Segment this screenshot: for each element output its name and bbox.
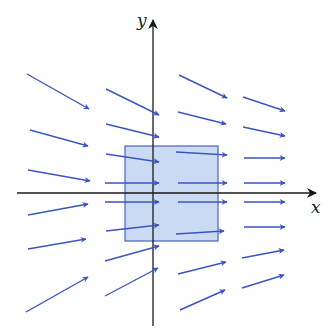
vector-arrow [243,97,285,111]
vector-arrow [178,112,226,124]
vector-field-diagram: x y [0,0,336,333]
vector-arrow [105,246,159,261]
vector-arrow [242,250,284,258]
vector-arrow [106,89,159,115]
vector-arrow [27,74,89,109]
vector-arrow [179,75,227,98]
vector-arrow [28,170,90,181]
vector-arrow [28,239,86,249]
vector-arrow [106,124,159,137]
vector-arrow [242,275,284,288]
vector-arrow [180,290,225,310]
vector-arrow [243,127,285,136]
vector-arrow [28,204,88,215]
vector-arrow [178,262,226,274]
vector-field-canvas: x y [0,0,336,333]
vector-arrow [26,277,88,312]
y-axis-label: y [136,10,147,30]
vector-arrow [30,130,88,146]
x-axis-label: x [311,197,321,217]
vector-arrow [105,268,158,296]
